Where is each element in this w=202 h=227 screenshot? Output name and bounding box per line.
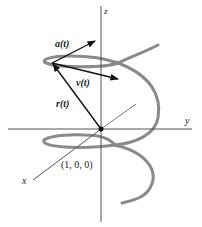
x-axis-label: x [21, 175, 27, 186]
velocity-label: v(t) [76, 77, 90, 89]
x-axis [33, 129, 101, 180]
z-axis-label: z [103, 6, 108, 16]
point-label: (1, 0, 0) [61, 159, 93, 171]
origin-dot [99, 127, 104, 132]
position-label: r(t) [56, 98, 69, 110]
x-axis-back [101, 104, 136, 129]
axes [8, 6, 192, 222]
y-axis-label: y [184, 115, 190, 126]
helix-diagram: z y x a(t) v(t) r(t) (1, 0, 0) [0, 0, 202, 227]
acceleration-label: a(t) [55, 38, 69, 50]
